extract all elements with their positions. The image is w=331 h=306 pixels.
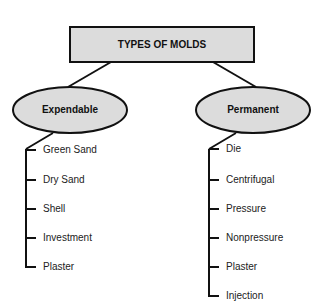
root-label: TYPES OF MOLDS xyxy=(118,39,206,51)
list-item: Shell xyxy=(43,203,65,215)
list-item: Plaster xyxy=(43,261,74,273)
list-item: Die xyxy=(226,143,241,155)
list-item: Nonpressure xyxy=(226,232,283,244)
list-item: Green Sand xyxy=(43,144,97,156)
connector-root-permanent xyxy=(213,62,256,87)
list-item: Plaster xyxy=(226,261,257,273)
connector-root-expendable xyxy=(68,62,111,87)
expendable-label: Expendable xyxy=(42,104,98,116)
list-item: Dry Sand xyxy=(43,174,85,186)
list-item: Injection xyxy=(226,290,263,302)
permanent-label: Permanent xyxy=(227,104,279,116)
list-item: Investment xyxy=(43,232,92,244)
list-item: Centrifugal xyxy=(226,174,274,186)
list-item: Pressure xyxy=(226,203,266,215)
